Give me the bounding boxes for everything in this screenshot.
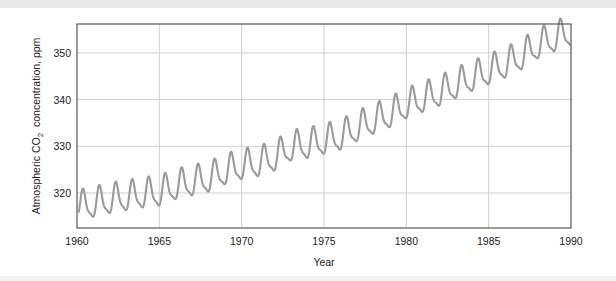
y-axis-title: Atmospheric CO2 concentration, ppm xyxy=(30,37,45,214)
co2-keeling-curve-chart: 320330340350 196019651970197519801985199… xyxy=(0,0,616,281)
x-gridlines xyxy=(159,24,488,228)
y-axis-tick-labels: 320330340350 xyxy=(53,47,71,199)
x-tick-label: 1960 xyxy=(65,235,89,247)
chart-svg: 320330340350 196019651970197519801985199… xyxy=(0,0,616,281)
svg-text:Atmospheric CO2 concentration: Atmospheric CO2 concentration, ppm xyxy=(30,37,45,214)
figure-root: 320330340350 196019651970197519801985199… xyxy=(0,0,616,281)
x-tick-label: 1985 xyxy=(477,235,501,247)
x-tick-label: 1975 xyxy=(312,235,336,247)
y-tick-label: 340 xyxy=(53,94,71,106)
y-tick-label: 320 xyxy=(53,187,71,199)
x-axis-tick-labels: 1960196519701975198019851990 xyxy=(65,235,583,247)
y-tick-label: 350 xyxy=(53,47,71,59)
y-tick-label: 330 xyxy=(53,140,71,152)
y-axis-title-trail: concentration, ppm xyxy=(30,37,42,127)
y-axis-title-lead: Atmospheric CO xyxy=(30,137,42,214)
x-tick-label: 1965 xyxy=(148,235,172,247)
x-tick-label: 1980 xyxy=(395,235,419,247)
x-tick-label: 1970 xyxy=(230,235,254,247)
x-axis-title: Year xyxy=(313,256,335,268)
x-tick-label: 1990 xyxy=(559,235,583,247)
